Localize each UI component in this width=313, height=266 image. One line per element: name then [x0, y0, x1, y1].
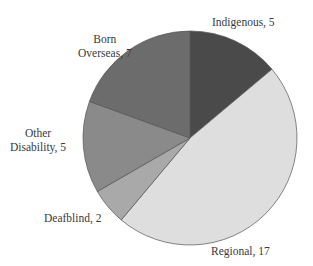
label-regional: Regional, 17 — [211, 244, 270, 258]
label-born-line2: Overseas, 7 — [78, 46, 132, 60]
label-deafblind: Deafblind, 2 — [44, 211, 101, 225]
label-other-disability: Other Disability, 5 — [10, 126, 66, 154]
label-other-line1: Other — [10, 126, 66, 140]
label-indigenous: Indigenous, 5 — [212, 15, 275, 29]
label-other-line2: Disability, 5 — [10, 140, 66, 154]
label-born-overseas: Born Overseas, 7 — [78, 32, 132, 60]
label-born-line1: Born — [78, 32, 132, 46]
